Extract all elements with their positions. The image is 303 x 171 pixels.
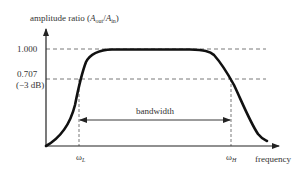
y-axis-title: amplitude ratio (Aout/Ain) <box>30 13 119 24</box>
bandpass-diagram: amplitude ratio (Aout/Ain) 1.000 0.707 (… <box>0 0 303 171</box>
x-axis-title: frequency <box>255 154 291 164</box>
tick-note-3db: (−3 dB) <box>16 80 44 90</box>
tick-label-0707: 0.707 <box>17 69 38 79</box>
tick-label-1000: 1.000 <box>17 44 38 54</box>
omega-h-label: ωH <box>226 152 237 163</box>
omega-l-label: ωL <box>76 152 86 163</box>
bandwidth-label: bandwidth <box>136 106 174 116</box>
